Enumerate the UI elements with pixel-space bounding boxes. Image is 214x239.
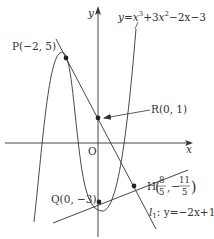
- point-H-label: H ( 8 5 , − 11 5 ): [147, 175, 196, 197]
- x-axis-label: x: [186, 143, 192, 155]
- curve-equation-label: y=x3+3x2−2x−3: [117, 10, 206, 23]
- line-l1-label: l1: y=−2x+1: [149, 206, 214, 220]
- svg-text:5: 5: [182, 187, 187, 197]
- point-R: [96, 116, 101, 121]
- svg-text:11: 11: [179, 175, 190, 185]
- coordinate-diagram: y x O y=x3+3x2−2x−3 P(−2, 5) R(0, 1) Q(0…: [0, 0, 214, 239]
- point-H: [132, 184, 137, 189]
- point-P: [64, 56, 69, 61]
- svg-text:5: 5: [159, 187, 164, 197]
- x-axis: [5, 140, 193, 146]
- origin-label: O: [88, 145, 97, 157]
- point-Q: [97, 200, 102, 205]
- point-R-label: R(0, 1): [151, 103, 187, 115]
- point-P-label: P(−2, 5): [12, 40, 56, 52]
- R-pointer-arrow: [104, 110, 150, 118]
- svg-text:): ): [191, 179, 196, 195]
- svg-text:,: ,: [167, 181, 170, 193]
- curve-label-leader: [135, 22, 138, 29]
- point-Q-label: Q(0, −3): [51, 193, 97, 205]
- svg-text:8: 8: [159, 175, 164, 185]
- y-axis-label: y: [87, 7, 95, 19]
